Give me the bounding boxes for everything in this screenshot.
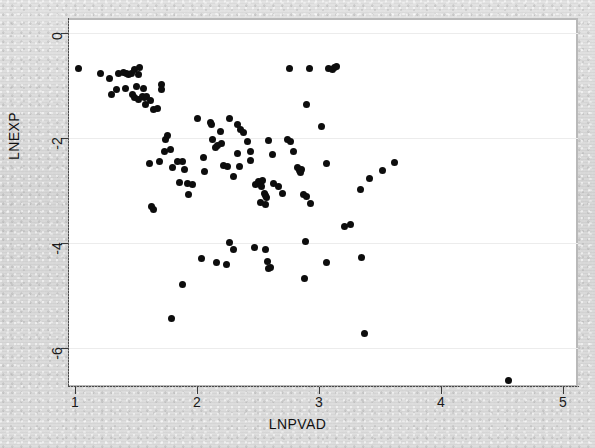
y-axis-tick-label: -6 [49,347,65,387]
gridline-y [69,243,578,244]
plot-area [68,18,578,386]
y-axis-tick-label: 0 [49,32,65,72]
y-axis-title: LNEXP [6,112,22,160]
x-axis-tick-label: 2 [185,394,209,410]
x-axis-tick [319,387,320,394]
plot-frame-top-edge [68,18,578,20]
x-axis-tick-label: 1 [63,394,87,410]
gridline-y [69,138,578,139]
y-axis-tick-label: -4 [49,242,65,282]
x-axis-tick [197,387,198,394]
gridline-y [69,33,578,34]
x-axis-title: LNPVAD [0,416,595,432]
x-axis-tick-label: 5 [551,394,575,410]
y-axis-line [68,18,69,386]
x-axis-tick [563,387,564,394]
scatter-plot-figure: 0-2-4-6 12345 LNEXP LNPVAD [0,0,595,448]
plot-frame-right-edge [576,18,578,386]
x-axis-tick-label: 4 [429,394,453,410]
x-axis-tick-label: 3 [307,394,331,410]
gridline-y [69,348,578,349]
x-axis-tick [441,387,442,394]
y-axis-tick-label: -2 [49,137,65,177]
x-axis-line [68,386,579,387]
x-axis-tick [75,387,76,394]
